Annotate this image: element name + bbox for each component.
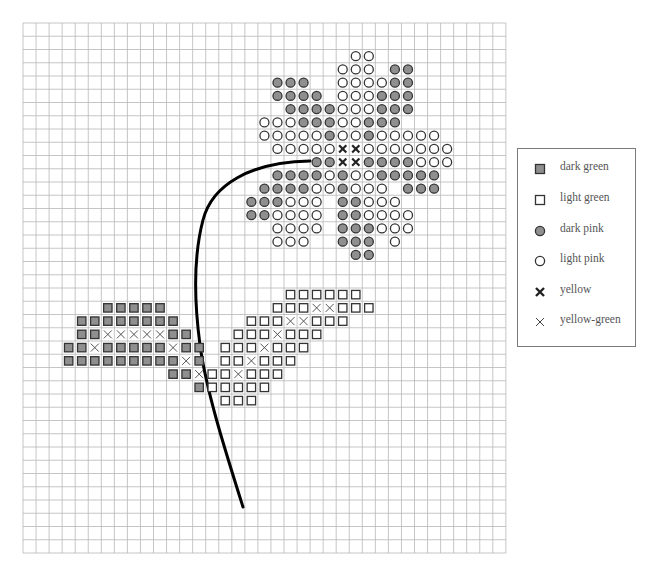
- bold-x-icon: [532, 284, 548, 300]
- stitch-dp: [273, 197, 282, 206]
- stitch-dp: [403, 171, 412, 180]
- stitch-lp: [273, 144, 282, 153]
- stitch-dg: [64, 357, 72, 365]
- stitch-dp: [325, 118, 334, 127]
- legend-label: light green: [560, 191, 610, 203]
- stitch-dp: [338, 197, 347, 206]
- stitch-lg: [260, 383, 268, 391]
- stitch-lp: [377, 78, 386, 87]
- stitch-dg: [78, 317, 86, 325]
- stitch-dg: [182, 343, 190, 351]
- stitch-lp: [351, 131, 360, 140]
- stitch-dg: [182, 330, 190, 338]
- stitch-dp: [312, 171, 321, 180]
- stitch-lg: [234, 343, 242, 351]
- stitch-lg: [299, 330, 307, 338]
- stitch-lp: [403, 131, 412, 140]
- stitch-dg: [78, 357, 86, 365]
- stitch-yg: [326, 304, 334, 312]
- stitch-dp: [351, 250, 360, 259]
- stitch-lg: [312, 290, 320, 298]
- stitch-dg: [130, 304, 138, 312]
- stitch-lp: [299, 224, 308, 233]
- stitch-lp: [377, 211, 386, 220]
- stitch-yg: [130, 330, 138, 338]
- stitch-lg: [273, 317, 281, 325]
- stitch-lg: [339, 290, 347, 298]
- stitch-lp: [338, 65, 347, 74]
- stitch-dp: [299, 184, 308, 193]
- stitch-dp: [377, 91, 386, 100]
- stitch-lp: [312, 184, 321, 193]
- stitch-dp: [403, 78, 412, 87]
- stitch-dp: [351, 197, 360, 206]
- stitch-lg: [286, 304, 294, 312]
- stitch-lg: [299, 304, 307, 312]
- stitch-dg: [143, 357, 151, 365]
- stitch-dp: [430, 171, 439, 180]
- stitch-lp: [430, 158, 439, 167]
- open-circle-icon: [532, 253, 548, 269]
- stitch-dp: [260, 211, 269, 220]
- stitch-dp: [273, 184, 282, 193]
- stitch-lp: [338, 91, 347, 100]
- stitch-lp: [325, 171, 334, 180]
- stitch-yg: [260, 344, 268, 352]
- stitch-dg: [104, 357, 112, 365]
- stitch-dp: [351, 211, 360, 220]
- stitch-yg: [300, 317, 308, 325]
- stitch-dp: [417, 171, 426, 180]
- stitch-lg: [273, 357, 281, 365]
- stitch-yg: [169, 344, 177, 352]
- stitch-lg: [247, 330, 255, 338]
- stitch-dg: [156, 317, 164, 325]
- stitch-lp: [286, 237, 295, 246]
- stitch-dp: [364, 131, 373, 140]
- legend-item-light-green: light green: [518, 190, 635, 210]
- stitch-lp: [430, 144, 439, 153]
- grid: [23, 23, 506, 553]
- stitch-dp: [390, 118, 399, 127]
- stitch-lp: [377, 224, 386, 233]
- stitch-lp: [286, 224, 295, 233]
- stitch-lp: [364, 211, 373, 220]
- stitch-lg: [365, 304, 373, 312]
- stitch-dp: [364, 250, 373, 259]
- stitch-yg: [234, 370, 242, 378]
- stitch-lp: [364, 144, 373, 153]
- stitch-lp: [299, 131, 308, 140]
- stitch-lg: [312, 330, 320, 338]
- stitch-dp: [377, 158, 386, 167]
- stitch-dg: [143, 304, 151, 312]
- stitch-dp: [390, 171, 399, 180]
- stitch-lg: [325, 290, 333, 298]
- stitch-dp: [390, 78, 399, 87]
- stitch-dg: [169, 317, 177, 325]
- stitch-lp: [286, 144, 295, 153]
- stitch-dp: [390, 158, 399, 167]
- stitch-dg: [195, 343, 203, 351]
- stitch-dg: [156, 343, 164, 351]
- stitch-dp: [403, 158, 412, 167]
- stitch-lp: [417, 144, 426, 153]
- stitch-lp: [312, 197, 321, 206]
- stitch-lp: [338, 131, 347, 140]
- stitch-dp: [338, 211, 347, 220]
- legend-label: dark pink: [560, 222, 604, 234]
- stitch-dp: [364, 118, 373, 127]
- filled-square-icon: [532, 161, 548, 177]
- stitch-lp: [286, 131, 295, 140]
- stitch-dp: [417, 184, 426, 193]
- stitch-y: [339, 159, 346, 166]
- stitch-dg: [169, 357, 177, 365]
- stitch-dp: [312, 91, 321, 100]
- stitch-dg: [91, 330, 99, 338]
- legend: dark green light green dark pink light p…: [517, 148, 636, 347]
- stitch-lp: [377, 197, 386, 206]
- stitch-lp: [325, 144, 334, 153]
- stitch-yg: [143, 330, 151, 338]
- stitch-dp: [273, 78, 282, 87]
- stitch-lg: [312, 317, 320, 325]
- stitch-lp: [312, 131, 321, 140]
- stitch-dg: [156, 357, 164, 365]
